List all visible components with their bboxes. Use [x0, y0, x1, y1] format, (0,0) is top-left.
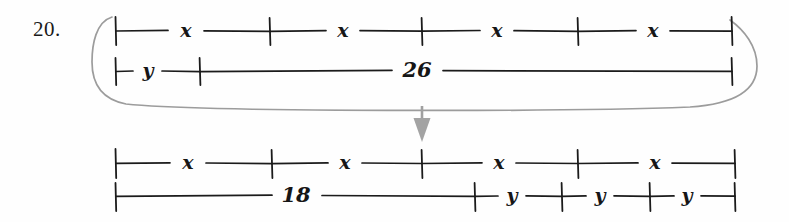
- segment-label: y: [505, 184, 519, 206]
- segment-label: x: [338, 151, 351, 173]
- segment-label: x: [490, 19, 503, 41]
- x-bar-bottom: x x x x: [116, 149, 736, 178]
- segment-label: y: [593, 184, 607, 206]
- segment-label: x: [336, 19, 349, 41]
- eighteen-plus-3y-bar: 18 y y y: [116, 182, 736, 212]
- segment-label: x: [179, 19, 192, 41]
- segment-label: y: [680, 184, 694, 206]
- segment-label: x: [646, 19, 659, 41]
- y-plus-26-bar: y 26: [116, 57, 733, 86]
- transform-arrow: [414, 106, 431, 142]
- segment-label: 18: [281, 182, 311, 207]
- x-bar-top: x x x x: [116, 17, 733, 45]
- segment-label: y: [141, 59, 155, 81]
- segment-label: 26: [401, 57, 432, 82]
- segment-label: x: [648, 151, 661, 173]
- segment-label: x: [181, 151, 194, 173]
- worksheet-problem-page: 20. x x x x: [0, 0, 789, 222]
- tape-diagram-svg: x x x x y 26: [0, 0, 789, 222]
- segment-label: x: [492, 151, 505, 173]
